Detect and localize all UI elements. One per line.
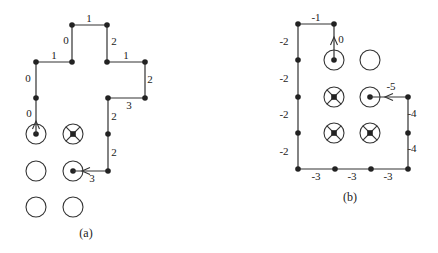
path-node [295,57,301,63]
path-node [331,21,337,27]
edge-label: 0 [338,33,344,45]
contour-path [36,25,145,171]
crossed-circle-icon [63,124,83,144]
edge-label: 0 [26,107,32,119]
panel-b: -10-2-2-2-2-3-3-3-4-4-5(b) [279,11,417,204]
path-node [33,95,39,101]
path-node [104,59,110,65]
edge-label: 2 [147,73,153,85]
path-node [405,166,411,172]
edge-label: -2 [279,35,288,47]
panel-a: 001012123223(a) [25,12,153,240]
edge-label: 0 [25,72,31,84]
path-node [295,166,301,172]
path-node [69,59,75,65]
path-node [69,22,75,28]
edge-label: -1 [311,11,320,23]
path-node [405,94,411,100]
path-node [295,94,301,100]
edge-label: 0 [63,34,69,46]
empty-circle-icon [360,50,380,70]
edge-label: 3 [89,172,95,184]
path-node [405,130,411,136]
edge-label: -2 [279,108,288,120]
empty-circle-icon [26,197,46,217]
panel-caption: (a) [79,226,92,240]
path-node [142,59,148,65]
path-node [295,130,301,136]
diagram-svg: 001012123223(a) -10-2-2-2-2-3-3-3-4-4-5(… [0,0,438,253]
path-node [295,21,301,27]
edge-label: 1 [123,49,129,61]
edge-label: -3 [311,170,321,182]
empty-circle-icon [63,197,83,217]
crossed-circle-icon [324,87,344,107]
edge-label: 3 [126,99,132,111]
edge-label: -2 [279,145,288,157]
path-node [142,95,148,101]
edge-label: -5 [386,80,396,92]
path-node [332,166,338,172]
path-node [105,95,111,101]
edge-label: -3 [383,170,393,182]
empty-circle-icon [26,161,46,181]
edge-label: -3 [347,170,357,182]
edge-label: -4 [407,107,417,119]
edge-label: 1 [51,49,57,61]
panel-caption: (b) [343,190,357,204]
path-node [104,22,110,28]
path-node [105,131,111,137]
crossed-circle-icon [324,123,344,143]
edge-label: 2 [111,35,117,47]
path-node [33,59,39,65]
edge-label: 2 [111,146,117,158]
diagram-canvas: 001012123223(a) -10-2-2-2-2-3-3-3-4-4-5(… [0,0,438,253]
crossed-circle-icon [360,123,380,143]
path-node [368,166,374,172]
path-node [105,168,111,174]
contour-path [298,24,408,169]
edge-label: -4 [407,142,417,154]
edge-label: 2 [111,110,117,122]
edge-label: 1 [86,12,92,24]
edge-label: -2 [279,72,288,84]
